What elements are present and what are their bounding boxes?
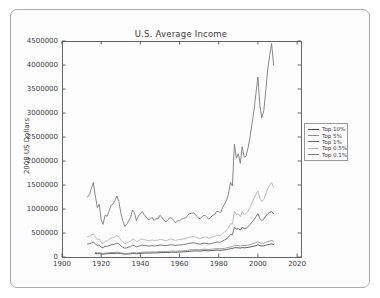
y-tick-label: 4500000 bbox=[14, 37, 58, 45]
legend-line-sample bbox=[308, 135, 319, 136]
x-tick-label: 2020 bbox=[282, 260, 312, 268]
legend: Top 10%Top 5%Top 1%Top 0.5%Top 0.1% bbox=[304, 123, 348, 161]
legend-line-sample bbox=[308, 154, 319, 155]
y-tick-label: 2000000 bbox=[14, 157, 58, 165]
y-tick-label: 1500000 bbox=[14, 181, 58, 189]
series-line-top-1- bbox=[88, 211, 274, 248]
series-line-top-0-5- bbox=[88, 183, 274, 244]
x-tick-label: 1960 bbox=[165, 260, 195, 268]
series-line-top-0-1- bbox=[88, 43, 274, 226]
y-tick-label: 2500000 bbox=[14, 133, 58, 141]
y-tick-label: 1000000 bbox=[14, 205, 58, 213]
y-tick-label: 4000000 bbox=[14, 61, 58, 69]
y-tick-label: 500000 bbox=[14, 229, 58, 237]
legend-label: Top 5% bbox=[322, 133, 342, 139]
legend-label: Top 1% bbox=[322, 139, 342, 145]
x-tick-label: 1980 bbox=[204, 260, 234, 268]
legend-line-sample bbox=[308, 148, 319, 149]
legend-label: Top 0.1% bbox=[322, 152, 347, 158]
y-tick-label: 3000000 bbox=[14, 109, 58, 117]
legend-item: Top 0.1% bbox=[308, 152, 345, 158]
x-tick-label: 1940 bbox=[125, 260, 155, 268]
x-tick-label: 2000 bbox=[243, 260, 273, 268]
x-tick-label: 1920 bbox=[86, 260, 116, 268]
axes-box bbox=[62, 41, 301, 257]
x-tick-label: 1900 bbox=[47, 260, 77, 268]
y-tick-label: 3500000 bbox=[14, 85, 58, 93]
figure: U.S. Average Income 2008 US Dollars 0500… bbox=[0, 0, 380, 298]
legend-label: Top 0.5% bbox=[322, 145, 347, 151]
legend-line-sample bbox=[308, 141, 319, 142]
legend-label: Top 10% bbox=[322, 126, 345, 132]
legend-line-sample bbox=[308, 129, 319, 130]
